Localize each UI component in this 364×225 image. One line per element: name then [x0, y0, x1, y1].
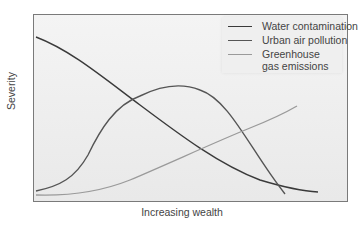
series-urban-air-pollution: [36, 86, 285, 194]
legend-label-water: Water contamination: [262, 20, 358, 32]
x-axis-label: Increasing wealth: [0, 206, 364, 218]
legend-label-greenhouse: Greenhouse: [262, 48, 320, 60]
legend-label-urban-air: Urban air pollution: [262, 34, 347, 46]
y-axis-label: Severity: [5, 72, 17, 110]
series-greenhouse-gas: [36, 106, 297, 195]
legend: Water contamination Urban air pollution …: [222, 17, 342, 73]
legend-swatch-urban-air: [228, 40, 252, 41]
legend-label-greenhouse-2: gas emissions: [262, 60, 329, 72]
legend-swatch-water: [228, 26, 252, 27]
legend-swatch-greenhouse: [228, 54, 252, 55]
